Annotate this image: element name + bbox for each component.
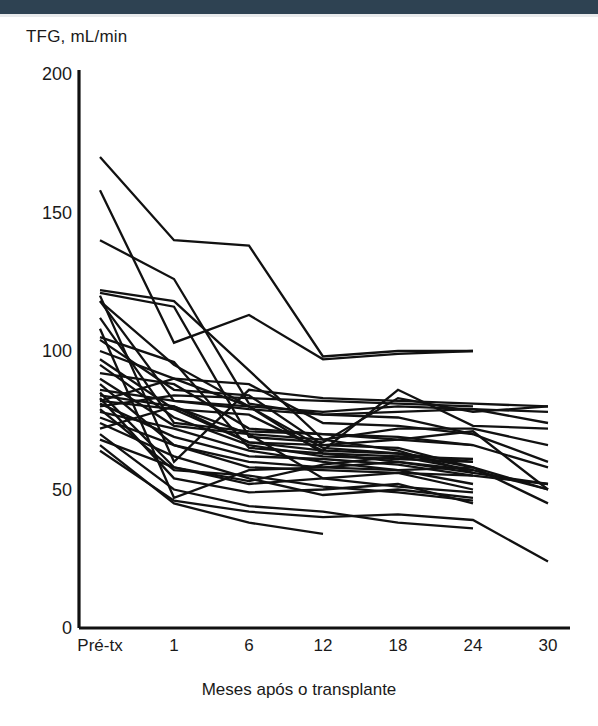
series-line	[100, 293, 548, 443]
x-tick-label: 18	[389, 636, 408, 656]
y-tick-label: 200	[14, 64, 72, 85]
x-axis-label: Meses após o transplante	[0, 680, 598, 700]
chart-plot-area	[0, 0, 598, 726]
series-lines-group	[100, 157, 548, 561]
series-line	[100, 157, 473, 356]
x-tick-label: 30	[539, 636, 558, 656]
y-tick-label: 150	[14, 202, 72, 223]
x-tick-label: 24	[464, 636, 483, 656]
x-tick-label: 1	[169, 636, 178, 656]
figure-panel: TFG, mL/min 050100150200 Pré-tx161218243…	[0, 0, 598, 726]
series-line	[100, 190, 473, 359]
x-tick-label: Pré-tx	[77, 636, 122, 656]
y-tick-label: 100	[14, 341, 72, 362]
axis-lines-group	[79, 70, 570, 628]
y-tick-label: 0	[14, 618, 72, 639]
y-tick-label: 50	[14, 479, 72, 500]
x-tick-label: 12	[314, 636, 333, 656]
x-tick-label: 6	[244, 636, 253, 656]
